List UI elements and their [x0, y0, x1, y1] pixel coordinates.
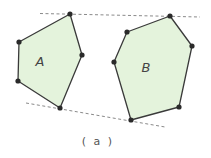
vertex-dot: [67, 11, 72, 16]
vertex-dot: [57, 105, 62, 110]
polygon-b-label: B: [142, 60, 151, 75]
vertex-dot: [16, 39, 21, 44]
figure-caption: ( a ): [82, 135, 114, 148]
top-tangent-line: [40, 14, 200, 18]
polygon-a: [18, 14, 82, 108]
vertex-dot: [128, 117, 133, 122]
vertex-dot: [189, 43, 194, 48]
vertex-dot: [176, 104, 181, 109]
vertex-dot: [111, 59, 116, 64]
vertex-dot: [79, 52, 84, 57]
polygon-a-label: A: [35, 54, 45, 69]
diagram-canvas: A B ( a ): [0, 0, 211, 158]
vertex-dot: [167, 13, 172, 18]
vertex-dot: [15, 78, 20, 83]
vertex-dot: [124, 29, 129, 34]
